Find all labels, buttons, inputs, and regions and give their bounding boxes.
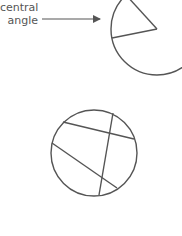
circle-with-chords bbox=[51, 110, 137, 196]
circle-with-central-angle bbox=[111, 0, 182, 75]
diagram-canvas bbox=[0, 0, 182, 236]
